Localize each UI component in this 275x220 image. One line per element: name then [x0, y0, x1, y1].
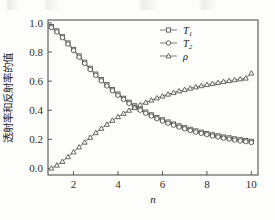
legend-label-2: ρ [182, 51, 188, 62]
series-marker-T2 [49, 25, 53, 29]
series-marker-rho [54, 163, 59, 167]
legend-label-0: T1 [183, 25, 192, 39]
series-marker-rho [249, 71, 254, 75]
series-marker-T2 [166, 121, 170, 125]
series-marker-rho [127, 108, 132, 112]
series-marker-T2 [138, 108, 142, 112]
series-line-rho [51, 73, 251, 168]
y-tick-label: 0.0 [29, 162, 43, 174]
legend-marker-circle-open-icon [166, 41, 170, 45]
plot-canvas: 2468100.00.20.40.60.81.0n透射率和反射率的值T1T2ρ [0, 0, 275, 220]
series-marker-T2 [71, 48, 75, 52]
legend-marker-square-open-icon [166, 28, 170, 32]
series-marker-T2 [244, 139, 248, 143]
series-marker-T2 [66, 42, 70, 46]
x-tick-label: 6 [160, 178, 166, 190]
series-marker-T2 [227, 137, 231, 141]
series-line-T2 [51, 28, 251, 143]
y-axis-title: 透射率和反射率的值 [2, 52, 14, 143]
series-marker-T2 [194, 130, 198, 134]
y-tick-label: 1.0 [29, 17, 43, 29]
series-marker-T2 [232, 138, 236, 142]
series-marker-T2 [144, 111, 148, 115]
series-marker-T2 [238, 139, 242, 143]
y-tick-label: 0.4 [29, 104, 43, 116]
series-marker-T2 [116, 93, 120, 97]
x-tick-label: 4 [115, 178, 121, 190]
series-marker-rho [110, 118, 115, 122]
plot-frame [48, 20, 258, 175]
x-tick-label: 10 [246, 178, 258, 190]
x-tick-label: 8 [204, 178, 210, 190]
series-marker-T2 [88, 67, 92, 71]
series-marker-T2 [205, 132, 209, 136]
series-marker-T2 [177, 125, 181, 129]
series-marker-T2 [171, 123, 175, 127]
series-marker-T2 [221, 136, 225, 140]
legend-subscript-1: 2 [189, 43, 193, 51]
series-marker-T2 [99, 79, 103, 83]
series-marker-T2 [249, 140, 253, 144]
series-marker-T2 [216, 135, 220, 139]
legend-subscript-0: 1 [189, 30, 193, 38]
series-marker-T2 [55, 30, 59, 34]
series-marker-T2 [188, 128, 192, 132]
y-tick-label: 0.8 [29, 46, 43, 58]
x-axis-title: n [150, 193, 156, 205]
y-tick-label: 0.6 [29, 75, 43, 87]
series-marker-T2 [105, 84, 109, 88]
series-marker-T2 [127, 101, 131, 105]
series-marker-T2 [149, 114, 153, 118]
series-marker-rho [116, 114, 121, 118]
series-marker-T2 [121, 97, 125, 101]
series-marker-T2 [210, 134, 214, 138]
series-marker-rho [121, 111, 126, 115]
y-tick-label: 0.2 [29, 133, 43, 145]
chart-figure: 2468100.00.20.40.60.81.0n透射率和反射率的值T1T2ρ [0, 0, 275, 220]
legend-label-1: T2 [183, 38, 193, 52]
series-marker-T2 [160, 119, 164, 123]
series-marker-T2 [110, 89, 114, 93]
series-marker-rho [104, 122, 109, 126]
series-marker-T2 [94, 73, 98, 77]
x-tick-label: 2 [71, 178, 77, 190]
series-marker-T2 [155, 116, 159, 120]
series-line-T1 [51, 27, 251, 142]
series-marker-T2 [82, 61, 86, 65]
series-marker-rho [49, 166, 54, 170]
series-marker-T2 [77, 55, 81, 59]
series-marker-T2 [199, 131, 203, 135]
series-marker-T2 [182, 127, 186, 131]
series-marker-T2 [60, 36, 64, 40]
